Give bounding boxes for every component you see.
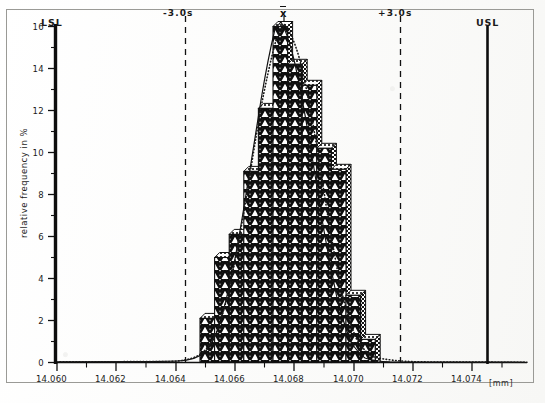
x-tick-label-14064: 14.064: [155, 375, 186, 384]
y-tick-label-4: 4: [16, 275, 44, 284]
plus-three-sigma-label: +3.0s: [378, 9, 412, 18]
y-tick-label-16: 16: [16, 23, 44, 32]
x-tick-label-14068: 14.068: [273, 375, 304, 384]
x-tick-label-14062: 14.062: [95, 375, 126, 384]
y-tick-label-8: 8: [16, 191, 44, 200]
minus-three-sigma-label: -3.0s: [163, 9, 194, 18]
x-tick-label-14072: 14.072: [392, 375, 423, 384]
y-tick-label-0: 0: [16, 359, 44, 368]
x-tick-label-14070: 14.070: [333, 375, 364, 384]
y-tick-label-6: 6: [16, 233, 44, 242]
usl-label: USL: [476, 18, 499, 28]
y-axis-title: relative frequency in %: [19, 113, 29, 253]
xbar-label: x: [280, 6, 286, 19]
y-tick-label-12: 12: [16, 107, 44, 116]
x-tick-label-14066: 14.066: [214, 375, 245, 384]
y-tick-label-14: 14: [16, 65, 44, 74]
y-tick-label-2: 2: [16, 317, 44, 326]
x-tick-label-14060: 14.060: [36, 375, 67, 384]
histogram-bars: [200, 22, 380, 363]
x-axis-unit-label: [mm]: [489, 379, 513, 388]
y-tick-label-10: 10: [16, 149, 44, 158]
lsl-label: LSL: [41, 18, 63, 28]
spc-histogram-plot: [0, 0, 545, 403]
histogram-screenshot: relative frequency in % 0 2 4 6 8 10 12 …: [0, 0, 545, 403]
x-tick-label-14074: 14.074: [451, 375, 482, 384]
x-axis: [55, 363, 527, 372]
xbar-letter: x: [280, 8, 286, 19]
